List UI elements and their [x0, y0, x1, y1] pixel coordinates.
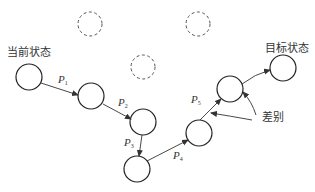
state-2	[130, 109, 156, 135]
operator-label-p1: P1	[57, 73, 68, 86]
unexplored-state-1	[78, 12, 102, 36]
means-ends-diagram: 当前状态 目标状态 差别 P1 P2 P3 P4 P5	[0, 0, 315, 192]
state-3	[124, 156, 150, 182]
operator-label-p4: P4	[172, 149, 183, 162]
operator-label-p5: P5	[190, 93, 201, 106]
state-5	[217, 76, 243, 102]
goal-state-label: 目标状态	[265, 41, 309, 55]
difference-label: 差别	[262, 110, 284, 124]
difference-pointer-2	[211, 113, 252, 120]
operator-label-p3: P3	[123, 136, 134, 149]
operator-label-p2: P2	[117, 96, 128, 109]
unexplored-state-3	[131, 55, 155, 79]
diagram-canvas: 当前状态 目标状态 差别 P1 P2 P3 P4 P5	[0, 0, 315, 192]
arrow-p3	[139, 135, 142, 156]
start-state	[16, 64, 42, 90]
arrow-p5	[200, 99, 221, 120]
arrow-to-goal	[242, 70, 270, 84]
state-4	[186, 120, 212, 146]
state-1	[78, 83, 104, 109]
goal-state	[270, 55, 296, 81]
difference-pointer-1	[243, 92, 256, 115]
start-state-label: 当前状态	[7, 45, 51, 59]
unexplored-state-2	[186, 12, 210, 36]
